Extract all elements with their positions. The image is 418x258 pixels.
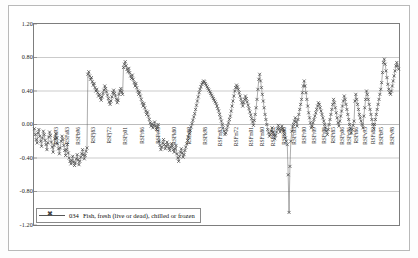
data-point-marker — [312, 118, 315, 121]
data-point-marker — [283, 133, 286, 136]
data-point-marker — [222, 126, 225, 129]
data-point-marker — [246, 100, 249, 103]
data-point-marker — [322, 120, 325, 123]
data-point-marker — [166, 143, 169, 146]
data-point-marker — [274, 134, 277, 137]
data-point-marker — [109, 103, 112, 106]
data-point-marker — [249, 114, 252, 117]
data-point-marker — [148, 118, 151, 121]
data-point-marker — [219, 116, 222, 119]
data-point-marker — [104, 87, 107, 90]
data-point-marker — [285, 140, 288, 143]
data-point-marker — [275, 131, 278, 134]
data-point-marker — [185, 142, 188, 145]
data-point-marker — [237, 88, 240, 91]
data-point-marker — [101, 92, 104, 95]
data-point-marker — [324, 126, 327, 129]
data-point-marker — [242, 101, 245, 104]
data-point-marker — [173, 151, 176, 154]
data-point-marker — [215, 105, 218, 108]
data-point-marker — [244, 95, 247, 98]
y-tick-label: -0.80 — [3, 187, 33, 194]
y-tick-label: -0.40 — [3, 154, 33, 161]
legend-marker-icon — [39, 212, 65, 220]
data-point-marker — [238, 91, 241, 94]
y-tick-label: 0.40 — [3, 87, 33, 94]
legend-series-code: 034 — [69, 212, 79, 219]
data-point-marker — [218, 113, 221, 116]
data-point-marker — [282, 130, 285, 133]
data-point-marker — [184, 146, 187, 149]
data-point-marker — [315, 108, 318, 111]
data-point-marker — [189, 129, 192, 132]
data-point-marker — [191, 119, 194, 122]
data-point-marker — [321, 116, 324, 119]
data-point-marker — [220, 120, 223, 123]
data-point-marker — [199, 88, 202, 91]
data-point-marker — [395, 61, 398, 64]
y-tick-label: 0.00 — [3, 120, 33, 127]
series-canvas — [34, 24, 399, 225]
data-point-marker — [241, 105, 244, 108]
data-point-marker — [168, 149, 171, 152]
data-point-marker — [320, 110, 323, 113]
data-point-marker — [140, 98, 143, 101]
data-point-marker — [107, 97, 110, 100]
data-point-marker — [226, 125, 229, 128]
data-point-marker — [273, 137, 276, 140]
data-point-marker — [170, 142, 173, 145]
y-tick-label: 1.20 — [3, 20, 33, 27]
data-point-marker — [360, 120, 363, 123]
data-point-marker — [312, 121, 315, 124]
data-point-marker — [280, 125, 283, 128]
data-point-marker — [247, 104, 250, 107]
y-axis: 1.200.800.400.00-0.40-0.80-1.20 — [0, 23, 33, 226]
y-tick-label: -1.20 — [3, 221, 33, 228]
data-point-marker — [100, 99, 103, 102]
data-point-marker — [279, 131, 282, 134]
data-point-marker — [227, 121, 230, 124]
data-point-marker — [187, 136, 190, 139]
chart-legend: 034 Fish, fresh (live or dead), chilled … — [36, 208, 201, 223]
data-point-marker — [116, 101, 119, 104]
chart-root: 1.200.800.400.00-0.40-0.80-1.20 RSFa93RS… — [0, 0, 418, 258]
data-point-marker — [69, 162, 72, 165]
data-point-marker — [319, 106, 322, 109]
data-point-marker — [314, 111, 317, 114]
data-point-marker — [250, 117, 253, 120]
series-line-034 — [34, 59, 398, 212]
data-point-marker — [217, 110, 220, 113]
data-point-marker — [188, 132, 191, 135]
data-point-marker — [190, 126, 193, 129]
data-point-marker — [199, 85, 202, 88]
data-point-marker — [119, 87, 122, 90]
data-point-marker — [106, 94, 109, 97]
data-point-marker — [396, 64, 399, 67]
data-point-marker — [155, 128, 158, 131]
data-point-marker — [284, 136, 287, 139]
gridlines — [34, 24, 399, 225]
data-point-marker — [248, 110, 251, 113]
data-point-marker — [228, 118, 231, 121]
data-point-marker — [239, 98, 242, 101]
data-point-marker — [247, 107, 250, 110]
y-tick-label: 0.80 — [3, 53, 33, 60]
data-point-marker — [320, 113, 323, 116]
data-point-marker — [225, 128, 228, 131]
legend-series-label: Fish, fresh (live or dead), chilled or f… — [83, 212, 195, 219]
data-point-marker — [114, 95, 117, 98]
plot-area — [33, 23, 400, 226]
data-point-marker — [192, 115, 195, 118]
data-point-marker — [216, 107, 219, 110]
data-point-marker — [313, 115, 316, 118]
data-point-marker — [397, 68, 400, 71]
data-point-marker — [186, 139, 189, 142]
data-point-marker — [359, 116, 362, 119]
data-point-marker — [73, 164, 76, 167]
data-point-marker — [239, 95, 242, 98]
